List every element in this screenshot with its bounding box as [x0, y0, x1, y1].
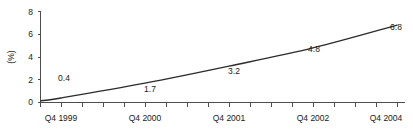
line-chart: 8 6 4 2 0 (%) Q4 1999 [0, 0, 413, 129]
chart-background [0, 0, 413, 129]
data-label-2: 3.2 [228, 66, 240, 76]
data-label-4: 6.8 [390, 22, 402, 32]
y-tick-label-4: 4 [28, 52, 33, 62]
y-tick-label-0: 0 [28, 97, 33, 107]
x-tick-label-2: Q4 2001 [213, 113, 246, 123]
y-tick-label-2: 2 [28, 75, 33, 85]
x-tick-label-0: Q4 1999 [45, 113, 78, 123]
chart-canvas: 8 6 4 2 0 (%) Q4 1999 [0, 0, 413, 129]
x-tick-label-3: Q4 2002 [297, 113, 330, 123]
x-tick-label-4: Q4 2004 [370, 113, 403, 123]
data-label-3: 4.8 [308, 44, 320, 54]
data-label-0: 0.4 [58, 73, 70, 83]
y-tick-label-8: 8 [28, 7, 33, 17]
data-label-1: 1.7 [144, 84, 156, 94]
y-tick-label-6: 6 [28, 29, 33, 39]
y-axis-title: (%) [6, 50, 16, 63]
x-tick-label-1: Q4 2000 [129, 113, 162, 123]
